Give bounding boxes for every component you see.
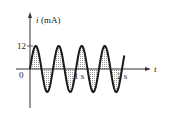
y-var-label: i	[36, 15, 39, 25]
y-axis-arrow-icon	[28, 12, 32, 18]
peak-label: 12	[17, 41, 26, 51]
origin-label: 0	[19, 70, 24, 80]
y-axis-label: (mA)	[41, 15, 61, 25]
x-axis-arrow-icon	[145, 67, 151, 71]
x-tick-1s-label: 1 s	[74, 71, 85, 81]
sine-current-chart: i (mA) 12 0 1 s 2 s t	[0, 0, 172, 126]
x-tick-2s-label: 2 s	[117, 71, 128, 81]
x-var-label: t	[154, 64, 157, 74]
